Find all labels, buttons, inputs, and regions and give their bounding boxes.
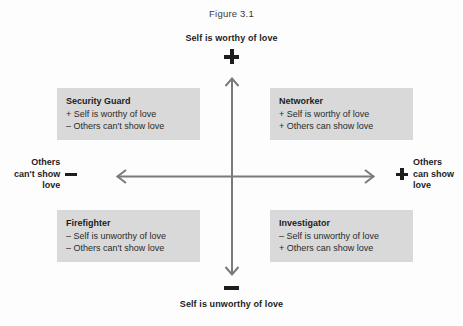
axis-label-left-line-3: love — [14, 180, 60, 192]
quadrant-line: + Others can show love — [279, 120, 404, 132]
quadrant-box-top-left: Security Guard + Self is worthy of love … — [57, 88, 200, 140]
quadrant-line: + Self is worthy of love — [66, 108, 191, 120]
plus-sign-right — [396, 168, 408, 180]
quadrant-title: Firefighter — [66, 217, 191, 229]
quadrant-title: Networker — [279, 95, 404, 107]
axis-label-left-line-1: Others — [14, 157, 60, 169]
figure-canvas: Figure 3.1 Self is worthy of love Self i… — [0, 0, 463, 326]
minus-bar-horizontal — [65, 173, 77, 176]
axis-label-left: Others can't show love — [14, 157, 60, 192]
axis-label-right-line-2: can show — [413, 169, 454, 181]
quadrant-line: – Self is unworthy of love — [66, 230, 191, 242]
quadrant-box-bottom-left: Firefighter – Self is unworthy of love –… — [57, 210, 200, 262]
axis-label-top: Self is worthy of love — [0, 33, 463, 45]
quadrant-box-bottom-right: Investigator – Self is unworthy of love … — [270, 210, 413, 262]
axis-label-right: Others can show love — [413, 157, 454, 192]
minus-sign-bottom — [224, 280, 239, 295]
axis-label-right-group: Others can show love — [396, 157, 454, 192]
axis-label-bottom: Self is unworthy of love — [0, 299, 463, 311]
quadrant-line: + Others can show love — [279, 242, 404, 254]
axis-label-right-line-3: love — [413, 180, 454, 192]
plus-bar-vertical — [230, 49, 234, 64]
quadrant-line: – Others can't show love — [66, 120, 191, 132]
minus-bar-horizontal — [224, 286, 239, 290]
quadrant-line: + Self is worthy of love — [279, 108, 404, 120]
quadrant-title: Investigator — [279, 217, 404, 229]
axis-label-right-line-1: Others — [413, 157, 454, 169]
axis-label-left-line-2: can't show — [14, 169, 60, 181]
plus-sign-top — [224, 49, 239, 64]
quadrant-title: Security Guard — [66, 95, 191, 107]
quadrant-box-top-right: Networker + Self is worthy of love + Oth… — [270, 88, 413, 140]
axis-label-left-group: Others can't show love — [14, 157, 77, 192]
minus-sign-left — [65, 168, 77, 180]
quadrant-line: – Others can't show love — [66, 242, 191, 254]
plus-bar-vertical — [400, 168, 403, 180]
quadrant-line: – Self is unworthy of love — [279, 230, 404, 242]
